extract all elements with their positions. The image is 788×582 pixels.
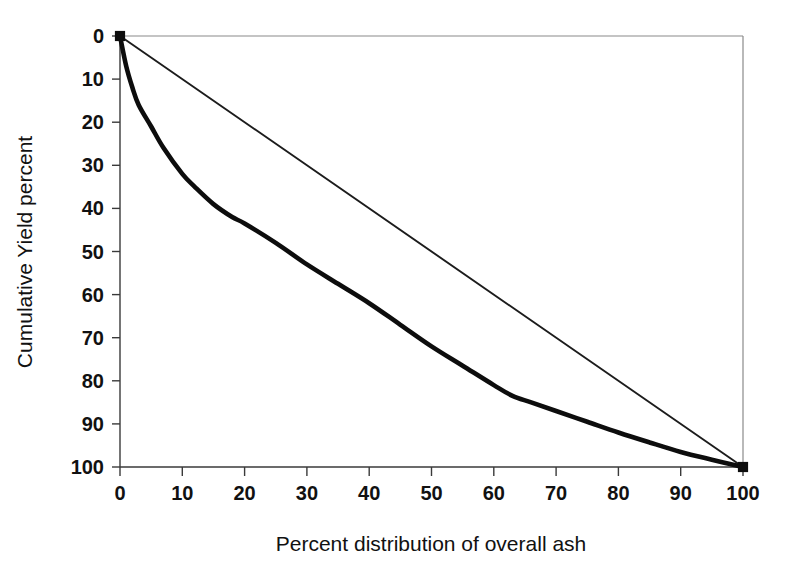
y-tick-label: 90 xyxy=(82,413,104,435)
y-tick-label: 70 xyxy=(82,327,104,349)
y-tick-label: 20 xyxy=(82,111,104,133)
washability-curve-chart: 0102030405060708090100 01020304050607080… xyxy=(0,0,788,582)
y-tick-label: 10 xyxy=(82,68,104,90)
x-axis-title: Percent distribution of overall ash xyxy=(276,532,587,555)
x-tick-label: 50 xyxy=(420,482,442,504)
x-tick-label: 0 xyxy=(114,482,125,504)
series-endpoint-marker xyxy=(739,463,748,472)
y-axis-title: Cumulative Yield percent xyxy=(13,136,36,368)
x-tick-label: 60 xyxy=(483,482,505,504)
y-tick-label: 0 xyxy=(93,25,104,47)
x-tick-label: 70 xyxy=(545,482,567,504)
x-tick-label: 40 xyxy=(358,482,380,504)
y-tick-label: 40 xyxy=(82,197,104,219)
y-tick-label: 30 xyxy=(82,154,104,176)
y-tick-label: 100 xyxy=(71,456,104,478)
series-endpoint-marker xyxy=(116,32,125,41)
y-tick-label: 50 xyxy=(82,241,104,263)
x-tick-label: 100 xyxy=(726,482,759,504)
x-tick-label: 30 xyxy=(296,482,318,504)
x-tick-label: 90 xyxy=(670,482,692,504)
x-tick-label: 80 xyxy=(607,482,629,504)
y-tick-label: 60 xyxy=(82,284,104,306)
x-tick-label: 10 xyxy=(171,482,193,504)
y-tick-label: 80 xyxy=(82,370,104,392)
x-tick-label: 20 xyxy=(233,482,255,504)
chart-figure: 0102030405060708090100 01020304050607080… xyxy=(0,0,788,582)
